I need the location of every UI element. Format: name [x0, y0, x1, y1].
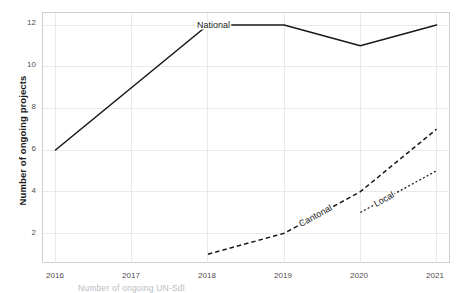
figure-caption: Number of ongoing UN-Sdl	[78, 283, 185, 293]
panel-border	[43, 13, 450, 263]
series-label-national: National	[197, 20, 230, 30]
